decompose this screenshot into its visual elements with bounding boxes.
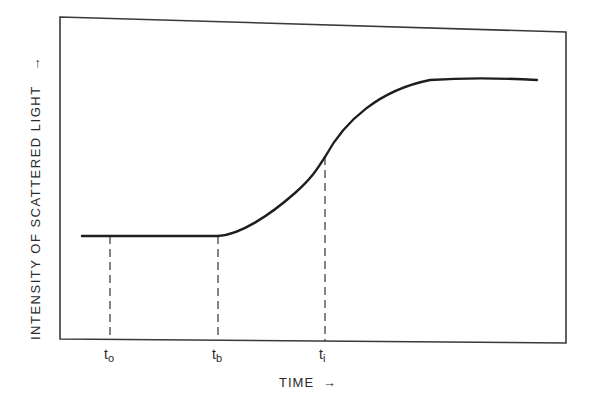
y-axis-arrow-icon: → [28, 56, 43, 71]
tick-tb-sub: b [216, 352, 222, 364]
intensity-curve [82, 79, 537, 237]
tick-t0-sub: o [108, 352, 114, 364]
plot-frame [60, 17, 566, 343]
tick-t0: to [104, 346, 114, 364]
y-axis-label: INTENSITY OF SCATTERED LIGHT → [28, 56, 43, 340]
chart-canvas [0, 0, 598, 401]
tick-ti-sub: i [323, 352, 325, 364]
tick-tb: tb [212, 346, 222, 364]
y-axis-label-text: INTENSITY OF SCATTERED LIGHT [28, 86, 43, 340]
x-axis-label: TIME → [279, 375, 337, 390]
tick-ti: ti [319, 346, 325, 364]
x-axis-label-text: TIME [279, 375, 314, 390]
x-axis-arrow-icon: → [323, 375, 337, 390]
